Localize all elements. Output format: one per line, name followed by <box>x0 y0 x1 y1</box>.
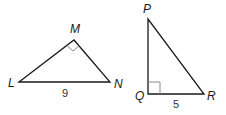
vertex-label-l: L <box>8 76 15 90</box>
right-angle-marker-m <box>67 46 80 52</box>
right-angle-marker-q <box>148 82 160 94</box>
triangle-lmn: L M N 9 <box>8 22 123 99</box>
vertex-label-r: R <box>207 89 216 103</box>
vertex-label-m: M <box>70 22 80 36</box>
triangle-pqr-outline <box>148 19 204 94</box>
side-label-qr: 5 <box>173 98 179 110</box>
diagram-canvas: L M N 9 P Q R 5 <box>0 0 226 115</box>
triangle-pqr: P Q R 5 <box>135 2 216 110</box>
vertex-label-p: P <box>143 2 151 16</box>
vertex-label-n: N <box>114 77 123 91</box>
triangle-lmn-outline <box>19 40 110 82</box>
vertex-label-q: Q <box>135 89 144 103</box>
side-label-ln: 9 <box>62 87 68 99</box>
